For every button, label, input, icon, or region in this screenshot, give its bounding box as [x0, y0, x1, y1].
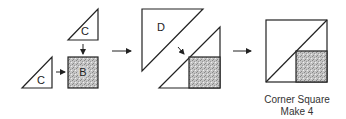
- arrow-diagonal: [178, 47, 184, 54]
- caption-line-1: Corner Square: [264, 94, 330, 105]
- triangle-d-label: D: [157, 21, 165, 33]
- step2-group: D: [142, 9, 220, 88]
- triangle-c-top-label: C: [81, 25, 89, 37]
- caption-line-2: Make 4: [281, 106, 314, 117]
- result-shaded-square: [296, 51, 327, 82]
- lower-shaded-square: [189, 57, 220, 88]
- square-b-label: B: [79, 66, 86, 78]
- step1-group: C C B: [22, 9, 98, 88]
- quilt-block-diagram: C C B D Corner Square Make 4: [0, 0, 346, 119]
- corner-square-result: Corner Square Make 4: [264, 20, 330, 117]
- triangle-c-left-label: C: [37, 74, 45, 86]
